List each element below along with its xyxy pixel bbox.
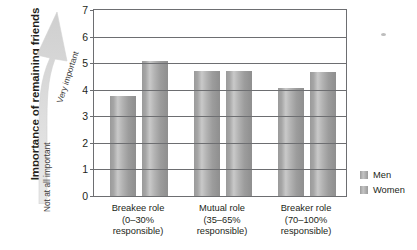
- x-axis-label: Breaker role(70–100%responsible): [251, 203, 361, 238]
- legend-swatch-icon: [360, 186, 368, 194]
- legend-item-women[interactable]: Women: [360, 185, 405, 195]
- importance-scale-arrow: Very important Not at all important: [26, 6, 70, 204]
- legend-label: Men: [373, 170, 391, 180]
- gridline: [94, 90, 346, 91]
- y-axis-tick-label: 6: [68, 31, 88, 43]
- y-axis-tick: [90, 196, 94, 197]
- gridline: [94, 143, 346, 144]
- y-axis-tick-label: 4: [68, 84, 88, 96]
- legend: MenWomen: [360, 170, 405, 200]
- bar-group: [278, 10, 336, 196]
- y-axis-tick: [90, 116, 94, 117]
- y-axis-tick: [90, 63, 94, 64]
- y-axis-tick: [90, 10, 94, 11]
- gridline: [94, 63, 346, 64]
- stray-mark: [381, 33, 386, 36]
- bar-group: [110, 10, 168, 196]
- y-axis-tick-label: 5: [68, 57, 88, 69]
- gridline: [94, 116, 346, 117]
- bar-women: [142, 61, 168, 197]
- legend-swatch-icon: [360, 171, 368, 179]
- bars-container: [94, 10, 346, 196]
- x-axis-label-line: Breaker role: [251, 203, 361, 215]
- x-axis-label-line: (70–100%: [251, 215, 361, 227]
- bar-women: [310, 72, 336, 196]
- legend-label: Women: [373, 185, 405, 195]
- plot-area: 01234567: [93, 9, 347, 197]
- y-axis-tick: [90, 37, 94, 38]
- gridline: [94, 37, 346, 38]
- bar-group: [194, 10, 252, 196]
- y-axis-tick: [90, 143, 94, 144]
- x-axis-label-line: responsible): [251, 226, 361, 238]
- y-axis-tick: [90, 90, 94, 91]
- bar-chart: Importance of remaining friends Very imp…: [0, 0, 417, 250]
- y-axis-tick-label: 1: [68, 163, 88, 175]
- bar-men: [110, 96, 136, 196]
- y-axis-tick-label: 2: [68, 137, 88, 149]
- scale-label-low: Not at all important: [42, 142, 52, 212]
- legend-item-men[interactable]: Men: [360, 170, 405, 180]
- y-axis-tick: [90, 169, 94, 170]
- y-axis-tick-label: 3: [68, 110, 88, 122]
- gridline: [94, 169, 346, 170]
- y-axis-tick-label: 0: [68, 190, 88, 202]
- y-axis-tick-label: 7: [68, 4, 88, 16]
